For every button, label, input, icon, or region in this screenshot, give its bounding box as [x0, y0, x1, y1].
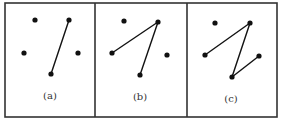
- graph-edge: [112, 22, 158, 53]
- panel-b: [109, 18, 169, 77]
- graph-edge: [51, 20, 69, 74]
- graph-node: [66, 17, 71, 22]
- graph-node: [21, 50, 26, 55]
- graph-node: [212, 20, 217, 25]
- panel-c: [202, 20, 261, 79]
- panel-a: [21, 17, 80, 76]
- graph-node: [247, 20, 252, 25]
- panel-c-label: (c): [224, 93, 238, 104]
- graph-node: [32, 17, 37, 22]
- graph-node: [256, 53, 261, 58]
- graph-node: [121, 18, 126, 23]
- panel-a-label: (a): [43, 90, 57, 101]
- figure-canvas: (a) (b) (c): [0, 0, 282, 121]
- graph-edge: [232, 23, 250, 77]
- panel-b-label: (b): [133, 91, 147, 102]
- graph-node: [155, 19, 160, 24]
- graph-node: [202, 52, 207, 57]
- graph-edge: [140, 22, 158, 75]
- graph-node: [75, 50, 80, 55]
- graph-edge: [205, 23, 250, 55]
- graph-node: [164, 52, 169, 57]
- graph-node: [229, 74, 234, 79]
- graph-node: [137, 72, 142, 77]
- graph-node: [48, 71, 53, 76]
- graph-node: [109, 50, 114, 55]
